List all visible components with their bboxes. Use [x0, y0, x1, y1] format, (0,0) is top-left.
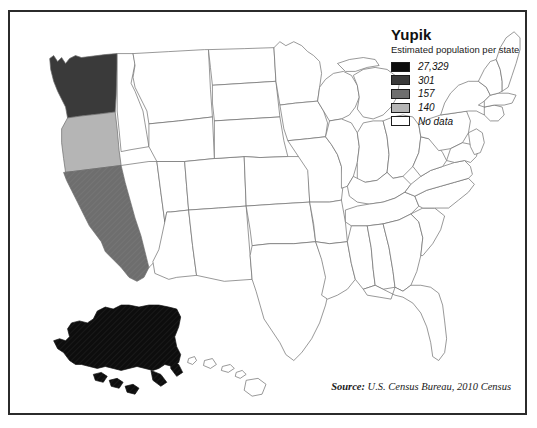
state-oregon	[62, 112, 122, 172]
legend-swatch-140	[391, 103, 410, 113]
state-alaska	[54, 305, 183, 394]
legend-label-157: 157	[418, 88, 435, 99]
state-oklahoma	[246, 202, 315, 246]
legend-swatch-no-data	[391, 116, 410, 126]
map-figure: Yupik Estimated population per state 27,…	[0, 0, 537, 428]
source-credit: Source: U.S. Census Bureau, 2010 Census	[331, 381, 511, 392]
state-hawaii	[188, 357, 266, 397]
state-newmexico	[189, 206, 253, 281]
state-iowa	[280, 101, 328, 141]
legend-row: 140	[391, 101, 531, 115]
source-label: Source:	[331, 381, 365, 392]
legend-row: 301	[391, 74, 531, 88]
map-legend: Yupik Estimated population per state 27,…	[391, 26, 531, 128]
state-northdakota	[208, 48, 275, 86]
legend-row: No data	[391, 114, 531, 128]
state-colorado	[185, 157, 247, 210]
state-southdakota	[212, 81, 279, 121]
state-montana	[133, 50, 212, 124]
state-arkansas	[310, 200, 348, 244]
legend-label-140: 140	[418, 102, 435, 113]
state-kansas	[244, 157, 309, 207]
state-nebraska	[214, 117, 287, 159]
state-texas	[250, 242, 329, 361]
legend-label-301: 301	[418, 75, 435, 86]
legend-row: 157	[391, 87, 531, 101]
legend-title: Yupik	[391, 26, 531, 43]
legend-swatch-157	[391, 89, 410, 99]
map-frame-border: Yupik Estimated population per state 27,…	[8, 10, 527, 415]
legend-row: 27,329	[391, 60, 531, 74]
legend-swatch-301	[391, 75, 410, 85]
legend-label-27329: 27,329	[418, 61, 449, 72]
state-minnesota	[274, 42, 322, 105]
source-text: U.S. Census Bureau, 2010 Census	[365, 381, 511, 392]
legend-subtitle: Estimated population per state	[391, 44, 531, 56]
state-washington	[50, 54, 117, 118]
legend-label-no-data: No data	[418, 116, 453, 127]
legend-swatch-27329	[391, 62, 410, 72]
state-indiana	[357, 121, 389, 182]
state-wyoming	[149, 117, 214, 162]
state-florida	[363, 285, 446, 360]
